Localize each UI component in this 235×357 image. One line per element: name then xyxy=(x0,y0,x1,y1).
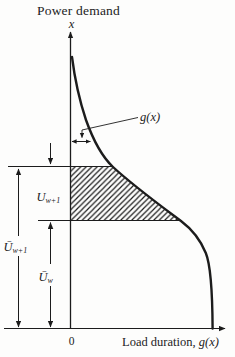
figure-canvas: Power demand x g(x) Uw+1 Ūw+1 Ūw 0 Load … xyxy=(0,0,235,357)
gx-callout-label: g(x) xyxy=(140,110,160,124)
u-band-label: Uw+1 xyxy=(37,190,61,206)
ubar-w-subscript: w xyxy=(48,276,54,285)
origin-label: 0 xyxy=(69,335,75,347)
ubar-w1-subscript: w+1 xyxy=(13,246,28,255)
u-band-subscript: w+1 xyxy=(46,196,61,205)
x-axis-caption: Load duration, g(x) xyxy=(122,335,219,349)
x-axis-caption-text: Load duration, xyxy=(122,335,199,349)
ubar-w1-label: Ūw+1 xyxy=(4,240,28,256)
hatched-band-region xyxy=(71,167,181,221)
x-axis-caption-math: g(x) xyxy=(199,335,219,349)
gx-leader-line xyxy=(82,118,138,131)
y-axis-symbol: x xyxy=(68,17,75,31)
figure: Power demand x g(x) Uw+1 Ūw+1 Ūw 0 Load … xyxy=(0,0,235,357)
power-demand-title: Power demand xyxy=(37,3,120,18)
ubar-w-label: Ūw xyxy=(39,270,54,286)
